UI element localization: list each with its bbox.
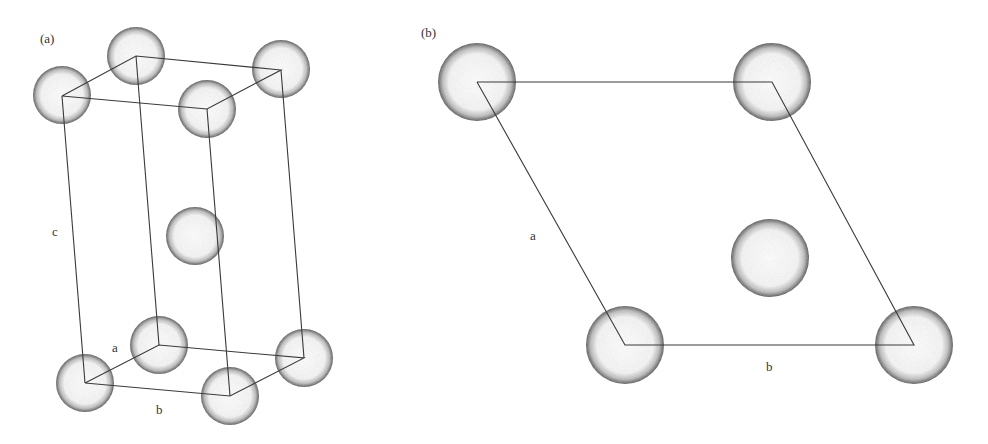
panel-a-label: (a) bbox=[40, 31, 54, 46]
panel-b-atoms bbox=[438, 43, 953, 384]
axis-label-a: a bbox=[112, 340, 118, 355]
panel-a: (a) c a b bbox=[33, 27, 333, 425]
axis-label-b: b bbox=[766, 359, 773, 374]
atom bbox=[252, 40, 310, 98]
panel-a-atoms bbox=[33, 27, 333, 425]
axis-label-a: a bbox=[530, 228, 536, 243]
panel-b-label: (b) bbox=[421, 25, 436, 40]
axis-label-b: b bbox=[156, 402, 163, 417]
panel-b: (b) a b bbox=[421, 25, 953, 384]
atom-interior bbox=[731, 219, 809, 297]
atom bbox=[33, 66, 91, 124]
crystal-structure-figure: (a) c a b (b) bbox=[0, 0, 988, 444]
axis-label-c: c bbox=[52, 224, 58, 239]
panel-b-cell-edges bbox=[477, 82, 914, 345]
